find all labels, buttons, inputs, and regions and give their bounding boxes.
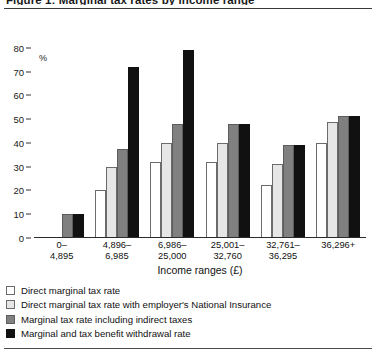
legend-swatch: [6, 329, 15, 338]
x-axis-label-line: 36,295: [255, 251, 310, 262]
x-axis-label-line: 32,761–: [255, 240, 310, 251]
legend-label: Direct marginal tax rate with employer's…: [21, 299, 271, 310]
y-axis-tick-mark: [26, 71, 31, 72]
x-axis-label-line: 6,985: [89, 251, 144, 262]
bar: [228, 124, 239, 238]
bar-group: [311, 36, 366, 238]
y-axis-tick-label: 40: [13, 137, 24, 148]
x-axis-tick-labels: 0–4,8954,896–6,9856,986–25,00025,001–32,…: [34, 240, 366, 262]
x-axis-label-line: 25,001–: [200, 240, 255, 251]
y-axis-tick: 10: [13, 209, 34, 220]
x-axis-label-line: 4,895: [34, 251, 89, 262]
y-axis-tick-label: 20: [13, 185, 24, 196]
bar-group: [200, 36, 255, 238]
y-axis-tick-mark: [26, 119, 31, 120]
y-axis-tick: 60: [13, 90, 34, 101]
y-axis-tick: 0: [19, 233, 34, 244]
bar-group: [34, 36, 89, 238]
x-axis-label-line: 6,986–: [145, 240, 200, 251]
legend-item: Marginal and tax benefit withdrawal rate: [6, 327, 370, 342]
bar: [73, 214, 84, 238]
x-axis-tick-label: 0–4,895: [34, 240, 89, 262]
figure-title: Figure 1: Marginal tax rates by income r…: [6, 0, 366, 5]
legend-swatch: [6, 300, 15, 309]
bar: [183, 50, 194, 238]
bar: [150, 162, 161, 238]
bar-group: [255, 36, 310, 238]
legend-label: Marginal tax rate including indirect tax…: [21, 314, 192, 325]
x-axis-label-line: 36,296+: [311, 240, 366, 251]
bar: [261, 185, 272, 238]
figure-container: Figure 1: Marginal tax rates by income r…: [0, 0, 376, 354]
legend-label: Direct marginal tax rate: [21, 285, 120, 296]
legend-item: Direct marginal tax rate: [6, 283, 370, 298]
x-axis-tick-label: 6,986–25,000: [145, 240, 200, 262]
y-axis-tick-mark: [26, 214, 31, 215]
x-axis-tick-label: 25,001–32,760: [200, 240, 255, 262]
bar: [161, 143, 172, 238]
legend-item: Direct marginal tax rate with employer's…: [6, 298, 370, 313]
x-axis-label-line: 25,000: [145, 251, 200, 262]
legend-swatch: [6, 286, 15, 295]
bottom-rule: [4, 348, 372, 349]
bar: [106, 167, 117, 238]
legend: Direct marginal tax rateDirect marginal …: [6, 283, 370, 341]
bar: [283, 145, 294, 238]
legend-swatch: [6, 315, 15, 324]
y-axis-tick-mark: [26, 47, 31, 48]
y-axis-tick-label: 10: [13, 209, 24, 220]
x-axis-title: Income ranges (£): [34, 264, 366, 276]
y-axis-tick: 20: [13, 185, 34, 196]
x-axis-tick-label: 4,896–6,985: [89, 240, 144, 262]
x-axis-line: [34, 237, 366, 238]
y-axis-tick-mark: [26, 166, 31, 167]
bar: [239, 124, 250, 238]
y-axis-tick-mark: [26, 190, 31, 191]
bar: [294, 145, 305, 238]
y-axis-tick-mark: [26, 237, 31, 238]
y-axis-tick-mark: [26, 95, 31, 96]
y-axis-tick: 40: [13, 137, 34, 148]
bar: [327, 122, 338, 238]
plot-area: % 01020304050607080: [34, 36, 366, 238]
x-axis-label-line: 32,760: [200, 251, 255, 262]
bar: [349, 116, 360, 238]
legend-label: Marginal and tax benefit withdrawal rate: [21, 328, 191, 339]
bar: [338, 116, 349, 238]
x-axis-tick-label: 36,296+: [311, 240, 366, 262]
y-axis-tick-label: 60: [13, 90, 24, 101]
bar-group: [145, 36, 200, 238]
y-axis-tick: 80: [13, 42, 34, 53]
bar: [206, 162, 217, 238]
bar: [95, 190, 106, 238]
y-axis-tick: 30: [13, 161, 34, 172]
bar: [128, 67, 139, 238]
bar-groups: [34, 36, 366, 238]
y-axis-tick-mark: [26, 142, 31, 143]
bar-group: [89, 36, 144, 238]
y-axis-tick: 70: [13, 66, 34, 77]
x-axis-tick-label: 32,761–36,295: [255, 240, 310, 262]
bar: [217, 143, 228, 238]
legend-item: Marginal tax rate including indirect tax…: [6, 312, 370, 327]
top-rule: [4, 8, 372, 9]
x-axis-label-line: 4,896–: [89, 240, 144, 251]
bar: [117, 149, 128, 238]
y-axis-tick-label: 50: [13, 114, 24, 125]
bar: [272, 164, 283, 238]
y-axis-tick-label: 30: [13, 161, 24, 172]
x-axis-label-line: 0–: [34, 240, 89, 251]
bar: [62, 214, 73, 238]
y-axis-tick-label: 0: [19, 233, 24, 244]
y-axis-tick-label: 80: [13, 42, 24, 53]
y-axis-tick-label: 70: [13, 66, 24, 77]
y-axis-tick: 50: [13, 114, 34, 125]
bar: [316, 143, 327, 238]
bar: [172, 124, 183, 238]
